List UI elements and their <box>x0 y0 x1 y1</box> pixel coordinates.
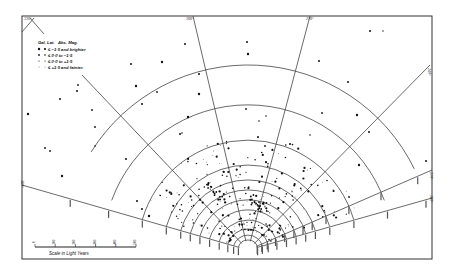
star-point <box>262 211 263 212</box>
legend-large-dot-alt-icon <box>44 48 46 50</box>
star-point <box>220 145 221 146</box>
star-point <box>258 225 259 226</box>
star-point <box>177 192 178 193</box>
star-point <box>260 199 261 200</box>
star-point <box>346 191 347 192</box>
star-point <box>280 229 282 231</box>
star-point <box>221 226 222 227</box>
star-point <box>125 158 127 160</box>
star-point <box>261 176 263 178</box>
scale-tick-label: 400 <box>113 239 117 244</box>
star-point <box>217 204 219 206</box>
arc-distance-tick-label <box>227 245 228 252</box>
star-point <box>219 199 221 201</box>
scale-label: Scale in Light Years <box>49 251 89 256</box>
longitude-ray <box>82 75 242 244</box>
arc-distance-tick-label <box>70 200 71 207</box>
distance-arc <box>234 235 263 246</box>
arc-distance-tick-label <box>315 232 316 239</box>
star-point <box>197 213 198 214</box>
star-point <box>260 203 261 204</box>
star-point <box>250 229 252 231</box>
star-point <box>159 195 160 196</box>
star-point <box>274 181 276 183</box>
star-point <box>270 203 271 204</box>
star-point <box>242 227 243 228</box>
star-point <box>217 199 219 201</box>
star-point <box>251 204 253 206</box>
star-point <box>198 189 200 191</box>
arc-distance-tick-label <box>199 237 200 244</box>
star-point <box>229 229 230 230</box>
star-point <box>300 188 302 190</box>
arc-distance-tick-label <box>262 247 263 254</box>
star-point <box>253 194 255 196</box>
star-point <box>226 192 227 193</box>
star-point <box>245 172 246 173</box>
star-point <box>191 199 193 201</box>
legend-header-lat: Gal. Lat. <box>38 40 55 45</box>
star-point <box>212 191 214 193</box>
star-point <box>255 204 256 205</box>
distance-arc <box>190 190 305 234</box>
star-point <box>249 218 250 219</box>
star-point <box>266 210 268 212</box>
star-point <box>292 195 294 197</box>
star-point <box>267 163 269 165</box>
star-point <box>220 201 221 202</box>
star-point <box>247 157 248 158</box>
star-point <box>181 222 182 223</box>
arc-distance-tick-label <box>233 247 234 254</box>
star-point <box>229 196 231 198</box>
star-point <box>207 187 209 189</box>
star-point <box>236 169 238 171</box>
star-point <box>253 219 254 220</box>
star-point <box>239 166 241 168</box>
star-point <box>254 159 256 161</box>
star-point <box>258 201 260 203</box>
star-point <box>258 120 260 122</box>
star-point <box>49 150 51 152</box>
star-point <box>255 211 256 212</box>
star-point <box>282 236 284 238</box>
star-point <box>207 183 209 185</box>
arc-distance-tick-label <box>380 193 381 200</box>
star-point <box>240 198 241 199</box>
legend-row-3: ≤ 0·0 to +1·5 <box>48 59 73 64</box>
star-point <box>255 203 257 205</box>
star-point <box>229 237 231 239</box>
star-point <box>271 239 272 240</box>
longitude-ray <box>22 185 239 248</box>
star-point <box>238 223 240 225</box>
star-point <box>425 160 427 162</box>
star-point <box>44 147 46 149</box>
star-point <box>77 84 79 86</box>
star-point <box>310 168 311 169</box>
star-point <box>266 225 268 227</box>
star-point <box>297 148 299 150</box>
star-point <box>268 229 270 231</box>
legend-row-2: ≤ 0·0 to −1·5 <box>48 53 73 58</box>
legend-medium-dot-icon <box>38 54 40 56</box>
star-point <box>348 196 350 198</box>
star-point <box>181 163 182 164</box>
longitude-label-270: 270° <box>306 16 314 21</box>
star-point <box>171 212 172 213</box>
star-point <box>268 239 270 241</box>
star-point <box>196 163 198 165</box>
star-point <box>224 226 225 227</box>
star-point <box>285 157 287 159</box>
star-point <box>318 60 320 62</box>
star-point <box>309 134 311 136</box>
longitude-ray <box>257 198 432 248</box>
star-point <box>268 224 270 226</box>
star-point <box>244 224 245 225</box>
star-point <box>264 206 265 207</box>
star-point <box>183 184 185 186</box>
legend-small-dot-alt-icon <box>44 60 45 61</box>
star-point <box>191 206 192 207</box>
star-point <box>193 222 195 224</box>
star-point <box>335 216 337 218</box>
star-point <box>234 226 235 227</box>
star-point <box>259 205 261 207</box>
